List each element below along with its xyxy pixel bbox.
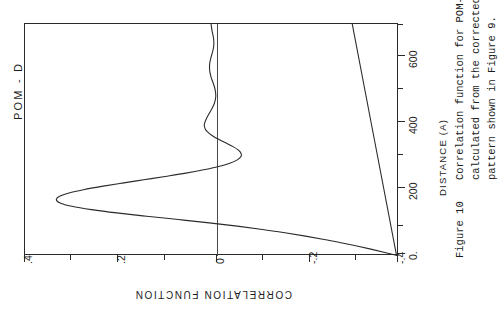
- dist-tick-minor: [398, 88, 403, 89]
- figure-caption-label: Figure 10: [452, 201, 468, 258]
- corr-tick-minor: [70, 255, 71, 260]
- dist-tick-major: [398, 253, 405, 254]
- dist-tick-label: 600: [407, 50, 419, 68]
- corr-tick-label: .2: [115, 255, 127, 264]
- corr-tick-label: 0: [214, 258, 226, 264]
- figure-10-correlation-function: POM - D .4 .2 0 -.2 -.4 CORRELATION FUNC…: [0, 0, 504, 322]
- caption-line: Correlation function for POM-D: [452, 0, 468, 180]
- corr-tick-minor: [355, 255, 356, 260]
- dist-tick-minor: [398, 24, 403, 25]
- caption-line: pattern shown in Figure 9.: [484, 0, 500, 180]
- corr-tick-label: -.2: [307, 252, 319, 264]
- corr-tick-minor: [164, 255, 165, 260]
- distance-axis-title: DISTANCE (A): [437, 119, 448, 196]
- dist-tick-minor: [398, 225, 403, 226]
- caption-line: calculated from the corrected: [468, 0, 484, 180]
- dist-tick-minor: [398, 154, 403, 155]
- correlation-curve: [25, 24, 399, 256]
- dist-tick-label: 200: [407, 182, 419, 200]
- figure-caption-text: Correlation function for POM-D calculate…: [452, 0, 500, 180]
- plot-area: [24, 23, 398, 255]
- dist-tick-major: [398, 187, 405, 188]
- correlation-function-axis-title: CORRELATION FUNCTION: [134, 289, 292, 300]
- dist-tick-major: [398, 55, 405, 56]
- dist-tick-major: [398, 121, 405, 122]
- dist-tick-label: 0.: [407, 251, 419, 260]
- corr-tick-label: .4: [22, 255, 34, 264]
- series-label-pom-d: POM - D: [12, 62, 24, 120]
- corr-tick-minor: [262, 255, 263, 260]
- dist-tick-label: 400: [407, 116, 419, 134]
